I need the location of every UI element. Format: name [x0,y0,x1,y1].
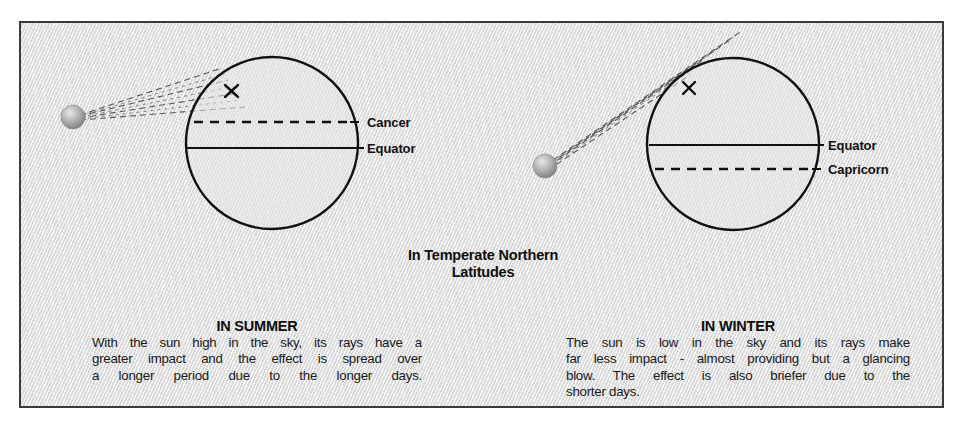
center-heading: In Temperate Northern Latitudes [333,247,633,281]
summer-label-equator: Equator [367,141,415,156]
summer-caption-line-2: greater impact and the effect is spread … [92,351,422,367]
winter-caption-line-2: far less impact - almost providing but a… [566,351,910,367]
seasons-diagram-figure: Cancer Equator Equator Capricorn In Temp… [0,0,966,430]
summer-caption-line-1: With the sun high in the sky, its rays h… [92,335,422,351]
winter-label-capricorn: Capricorn [828,162,889,177]
summer-caption-title: IN SUMMER [92,318,422,334]
winter-label-equator: Equator [828,138,876,153]
center-heading-line-2: Latitudes [333,264,633,281]
center-heading-line-1: In Temperate Northern [333,247,633,264]
summer-label-cancer: Cancer [367,115,410,130]
winter-caption-line-1: The sun is low in the sky and its rays m… [566,335,910,351]
summer-caption-line-3: a longer period due to the longer days. [92,368,422,384]
winter-caption-title: IN WINTER [566,318,910,334]
summer-caption-block: IN SUMMER With the sun high in the sky, … [92,318,422,384]
winter-caption-line-4: shorter days. [566,384,910,400]
winter-caption-block: IN WINTER The sun is low in the sky and … [566,318,910,401]
winter-caption-line-3: blow. The effect is also briefer due to … [566,368,910,384]
